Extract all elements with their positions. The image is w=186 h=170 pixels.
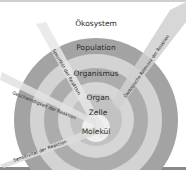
label-organismus: Organismus xyxy=(74,69,119,78)
label-oekosystem: Ökosystem xyxy=(75,19,117,28)
label-molekuel: Molekül xyxy=(82,127,111,136)
label-organ: Organ xyxy=(87,93,110,102)
levels-diagram: Ökosystem Population Organismus Organ Ze… xyxy=(0,0,186,170)
concentric-levels-graphic: Ökosystem Population Organismus Organ Ze… xyxy=(0,2,186,170)
label-population: Population xyxy=(76,43,116,52)
label-zelle: Zelle xyxy=(89,108,108,117)
